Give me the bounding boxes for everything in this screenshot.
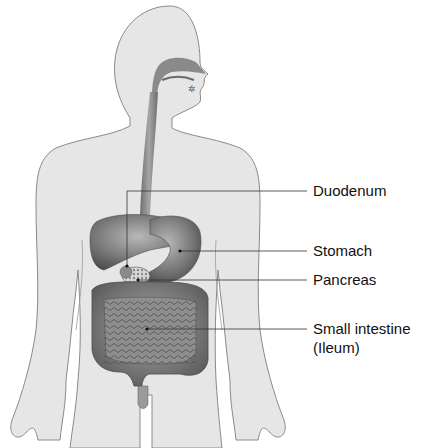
- teeth-icon: ✲: [188, 84, 196, 94]
- label-stomach: Stomach: [313, 242, 372, 259]
- label-pancreas: Pancreas: [313, 271, 376, 288]
- label-ileum: (Ileum): [313, 339, 360, 356]
- intestine-coil-texture: [104, 300, 196, 364]
- label-small-intestine: Small intestine: [313, 320, 411, 337]
- digestive-system-figure: ✲: [0, 0, 421, 448]
- duodenum-bulb: [120, 266, 132, 278]
- label-duodenum: Duodenum: [313, 182, 386, 199]
- rectum: [138, 386, 148, 409]
